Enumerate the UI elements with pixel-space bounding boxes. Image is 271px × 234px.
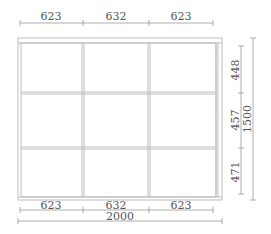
bottom-dim-1: 623 [41,199,62,212]
top-dim-2: 632 [106,10,127,23]
window-frame [18,38,222,200]
overall-height-dimension: 1500 [241,38,256,200]
overall-height-label: 1500 [241,105,254,133]
top-dimension-chain: 623 632 623 [20,10,213,26]
row-dim-3: 471 [229,162,242,183]
overall-width-dimension: 2000 [18,210,222,224]
frame-elevation-drawing: 623 632 623 448 457 471 15 [0,0,271,234]
top-dim-3: 623 [171,10,192,23]
row-dim-1: 448 [229,60,242,81]
bottom-dim-3: 623 [171,199,192,212]
top-dim-1: 623 [41,10,62,23]
overall-width-label: 2000 [106,210,134,223]
